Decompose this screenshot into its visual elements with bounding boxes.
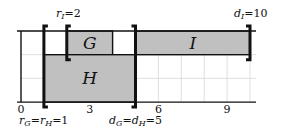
deadline-label-GH: dG=dH=5 (109, 114, 162, 128)
interval-diagram: GIH 0369 rI=2 dI=10 rG=rH=1 dG=dH=5 (0, 0, 282, 129)
tick-label: 9 (224, 103, 231, 116)
release-label-GH: rG=rH=1 (19, 114, 68, 128)
interval-label-H: H (81, 68, 98, 88)
interval-label-I: I (188, 33, 196, 53)
deadline-label-I: dI=10 (234, 7, 267, 21)
tick-label: 3 (86, 103, 93, 116)
interval-label-G: G (83, 33, 97, 53)
interval-rects: GIH (44, 31, 250, 102)
release-label-I: rI=2 (56, 7, 81, 21)
